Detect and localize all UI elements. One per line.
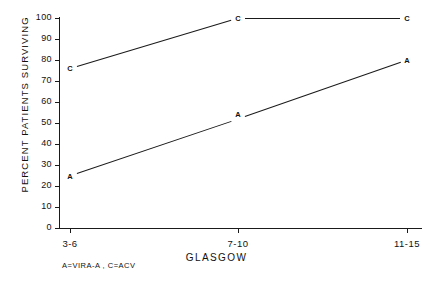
y-tick-mark	[55, 186, 60, 187]
y-tick-mark	[55, 207, 60, 208]
data-point-marker: C	[67, 64, 72, 73]
x-tick-mark	[70, 228, 71, 233]
y-tick-mark	[55, 18, 60, 19]
data-point-marker: A	[235, 109, 240, 118]
x-axis-line	[59, 228, 422, 229]
y-tick-mark	[55, 228, 60, 229]
y-tick-label: 10	[0, 201, 52, 211]
chart-legend: A=VIRA-A , C=ACV	[62, 261, 135, 270]
x-tick-label: 11-15	[394, 238, 420, 249]
y-axis-title: PERCENT PATIENTS SURVIVING	[19, 43, 30, 193]
x-tick-label: 7-10	[227, 238, 248, 249]
series-line-segment	[244, 62, 400, 118]
y-tick-mark	[55, 39, 60, 40]
data-point-marker: A	[404, 56, 409, 65]
y-tick-mark	[55, 144, 60, 145]
x-tick-mark	[407, 228, 408, 233]
series-line-segment	[76, 121, 231, 175]
x-tick-label: 3-6	[62, 238, 77, 249]
data-point-marker: A	[67, 171, 72, 180]
x-tick-mark	[238, 228, 239, 233]
y-tick-mark	[55, 165, 60, 166]
y-tick-label: 0	[0, 222, 52, 232]
y-tick-mark	[55, 102, 60, 103]
y-tick-mark	[55, 123, 60, 124]
series-line-segment	[77, 20, 232, 68]
chart-figure: 0102030405060708090100 3-67-1011-15 CCCA…	[0, 0, 433, 283]
y-tick-mark	[55, 60, 60, 61]
y-tick-mark	[55, 81, 60, 82]
data-point-marker: C	[235, 14, 240, 23]
series-line-segment	[245, 18, 400, 19]
data-point-marker: C	[404, 14, 409, 23]
